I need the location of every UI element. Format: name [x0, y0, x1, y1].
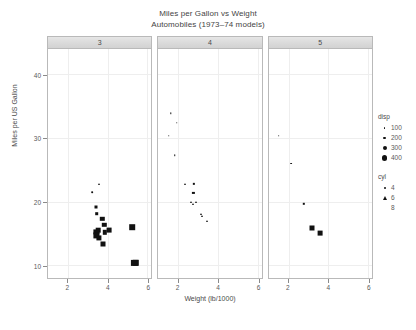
- legend-marker: [378, 187, 391, 189]
- data-point: [91, 191, 93, 193]
- data-point: [95, 212, 99, 216]
- gridline-horizontal: [269, 265, 372, 266]
- y-axis: 10203040: [40, 49, 47, 279]
- gridline-horizontal: [158, 138, 261, 139]
- x-axis-tick-label: 2: [65, 284, 69, 291]
- panel-strip-label: 5: [318, 39, 322, 46]
- gridline-vertical: [289, 49, 290, 278]
- legend-entry[interactable]: 200: [378, 133, 416, 143]
- x-axis-label: Weight (lb/1000): [47, 295, 373, 302]
- data-point: [168, 135, 170, 137]
- x-axis-group: 246: [157, 279, 262, 293]
- x-axis-tick-label: 6: [367, 284, 371, 291]
- facet-panel: 4: [157, 36, 262, 279]
- data-point: [102, 222, 106, 226]
- x-axis-tick-label: 4: [327, 284, 331, 291]
- x-axis-tick: [108, 279, 109, 283]
- y-axis-tick-label: 20: [34, 199, 41, 206]
- data-point: [100, 217, 104, 221]
- plot-area: 345: [47, 36, 373, 279]
- facet-panel: 5: [268, 36, 373, 279]
- gridline-horizontal: [158, 74, 261, 75]
- panel-strip-label: 3: [98, 39, 102, 46]
- legend-entry[interactable]: 400: [378, 153, 416, 163]
- legend-marker: [378, 155, 391, 160]
- x-axis-tick: [67, 279, 68, 283]
- data-point: [195, 201, 197, 203]
- chart-title-block: Miles per Gallon vs Weight Automobiles (…: [0, 8, 416, 30]
- data-point: [192, 203, 194, 205]
- circle-marker-icon: [383, 146, 387, 150]
- gridline-horizontal: [158, 202, 261, 203]
- data-point: [130, 224, 136, 230]
- data-point: [317, 231, 322, 236]
- legend-title: cyl: [378, 173, 416, 180]
- facet-panels: 345: [47, 36, 373, 279]
- x-axis-group: 246: [268, 279, 373, 293]
- x-axis-tick-label: 6: [146, 284, 150, 291]
- gridline-vertical: [328, 49, 329, 278]
- legend-entry-label: 300: [391, 145, 402, 152]
- panel-frame: [47, 49, 152, 279]
- gridline-horizontal: [269, 202, 372, 203]
- data-point: [131, 260, 137, 266]
- legend-entry[interactable]: 100: [378, 123, 416, 133]
- panel-frame: [157, 49, 262, 279]
- legend-entry[interactable]: 6: [378, 193, 416, 203]
- legend-entry-label: 100: [391, 125, 402, 132]
- chart-root: Miles per Gallon vs Weight Automobiles (…: [0, 0, 416, 330]
- triangle-marker-icon: [383, 196, 387, 200]
- data-point: [176, 122, 178, 124]
- x-axis-tick-label: 4: [216, 284, 220, 291]
- chart-subtitle: Automobiles (1973–74 models): [0, 19, 416, 30]
- legend-marker: [378, 196, 391, 200]
- gridline-vertical: [218, 49, 219, 278]
- y-axis-tick: [43, 75, 47, 76]
- x-axis-tick: [288, 279, 289, 283]
- legend-entry-label: 200: [391, 135, 402, 142]
- y-axis-tick: [43, 266, 47, 267]
- x-axis-tick-label: 4: [106, 284, 110, 291]
- y-axis-tick-label: 10: [34, 263, 41, 270]
- gridline-horizontal: [48, 202, 151, 203]
- data-point: [201, 215, 203, 217]
- gridline-vertical: [368, 49, 369, 278]
- legend-entry[interactable]: 4: [378, 183, 416, 193]
- gridline-vertical: [108, 49, 109, 278]
- facet-panel: 3: [47, 36, 152, 279]
- gridline-horizontal: [269, 138, 372, 139]
- legend-entry-label: 6: [391, 195, 395, 202]
- data-point: [278, 135, 280, 137]
- x-axis-tick-label: 2: [176, 284, 180, 291]
- legend: disp100200300400cyl468: [378, 113, 416, 213]
- data-point: [101, 242, 106, 247]
- gridline-vertical: [147, 49, 148, 278]
- circle-marker-icon: [383, 137, 386, 140]
- circle-marker-icon: [382, 155, 387, 160]
- data-point: [170, 113, 171, 114]
- data-point: [96, 235, 101, 240]
- data-point: [107, 228, 112, 233]
- gridline-vertical: [68, 49, 69, 278]
- data-point: [193, 183, 195, 185]
- data-point: [184, 183, 186, 185]
- legend-entry[interactable]: 8: [378, 203, 416, 213]
- data-point: [98, 183, 100, 185]
- y-axis-tick-label: 30: [34, 135, 41, 142]
- x-axis-tick-label: 6: [257, 284, 261, 291]
- data-point: [174, 154, 176, 156]
- legend-marker: [378, 146, 391, 150]
- x-axis-tick: [369, 279, 370, 283]
- circle-marker-icon: [384, 127, 386, 129]
- legend-marker: [378, 137, 391, 140]
- legend-entry-label: 8: [391, 205, 395, 212]
- data-point: [192, 192, 194, 194]
- panel-frame: [268, 49, 373, 279]
- x-axis-tick: [218, 279, 219, 283]
- legend-entry[interactable]: 300: [378, 143, 416, 153]
- x-axis-tick: [148, 279, 149, 283]
- legend-spacer: [378, 163, 416, 173]
- legend-marker: [378, 127, 391, 129]
- data-point: [290, 163, 292, 165]
- gridline-horizontal: [48, 74, 151, 75]
